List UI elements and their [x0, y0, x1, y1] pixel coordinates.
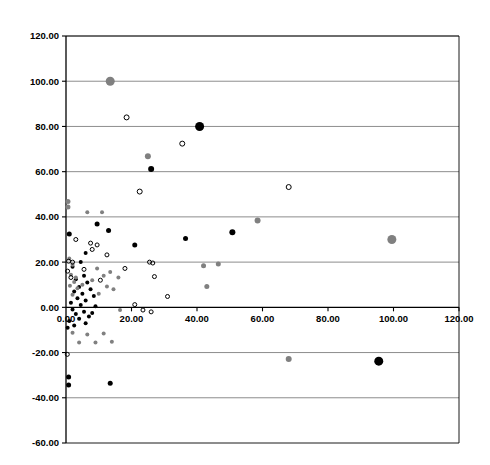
data-point — [75, 286, 79, 290]
x-tick-label: 100.00 — [379, 313, 408, 324]
data-point — [106, 77, 115, 86]
data-point — [90, 278, 94, 282]
data-point — [201, 263, 206, 268]
data-point — [74, 275, 78, 279]
data-point — [97, 292, 101, 296]
x-tick-label: 0.00 — [57, 313, 76, 324]
x-tick-label: 120.00 — [444, 313, 473, 324]
data-point — [148, 166, 154, 172]
x-tick-label: 40.00 — [185, 313, 209, 324]
y-tick-label: 80.00 — [35, 121, 59, 132]
data-point — [111, 287, 115, 291]
data-point — [87, 314, 91, 318]
data-point — [67, 232, 72, 237]
data-point — [180, 141, 185, 146]
data-point — [387, 235, 396, 244]
data-point — [286, 356, 292, 362]
data-point — [66, 383, 71, 388]
data-point — [72, 323, 76, 327]
chart-canvas: -60.00-40.00-20.000.0020.0040.0060.0080.… — [0, 0, 490, 465]
series-gray-filled — [65, 77, 396, 362]
data-point — [93, 341, 97, 345]
data-point — [102, 332, 106, 336]
y-tick-label: -40.00 — [32, 392, 59, 403]
data-point — [124, 115, 129, 120]
data-point — [152, 275, 156, 279]
data-point — [105, 285, 109, 289]
y-tick-label: 120.00 — [30, 30, 59, 41]
data-point — [82, 267, 86, 271]
data-point — [82, 310, 86, 314]
y-tick-label: 0.00 — [41, 302, 60, 313]
data-point — [183, 236, 188, 241]
data-point — [108, 381, 113, 386]
data-point — [68, 284, 72, 288]
x-tick-label: 60.00 — [251, 313, 275, 324]
data-point — [108, 270, 112, 274]
data-point — [69, 301, 73, 305]
data-point — [67, 319, 71, 323]
data-point — [72, 280, 76, 284]
data-point — [80, 283, 84, 287]
data-point — [84, 251, 88, 255]
data-point — [79, 303, 83, 307]
data-point — [75, 296, 79, 300]
data-point — [66, 326, 70, 330]
data-point — [74, 238, 78, 242]
x-tick-label: 20.00 — [120, 313, 144, 324]
data-point — [149, 310, 153, 314]
data-point — [116, 275, 120, 279]
data-point — [85, 332, 89, 336]
y-tick-label: 20.00 — [35, 257, 59, 268]
data-point — [100, 210, 104, 214]
y-tick-label: -20.00 — [32, 347, 59, 358]
data-point — [84, 321, 88, 325]
data-point — [195, 122, 204, 131]
data-point — [71, 308, 75, 312]
data-point — [85, 280, 89, 284]
y-tick-label: 40.00 — [35, 211, 59, 222]
data-point — [110, 340, 114, 344]
data-point — [90, 311, 94, 315]
data-point — [286, 185, 291, 190]
y-tick-label: 60.00 — [35, 166, 59, 177]
data-point — [255, 218, 261, 224]
y-tick-label: -60.00 — [32, 437, 59, 448]
data-point — [123, 266, 127, 270]
data-point — [204, 284, 209, 289]
data-point — [80, 292, 84, 296]
series-black-filled — [66, 122, 384, 388]
data-point — [89, 241, 93, 245]
data-point — [65, 204, 70, 209]
data-point — [95, 266, 99, 270]
data-point — [374, 357, 383, 366]
data-point — [65, 199, 70, 204]
data-point — [84, 299, 88, 303]
data-point — [132, 242, 137, 247]
data-point — [145, 153, 151, 159]
data-point — [71, 331, 75, 335]
data-point — [98, 278, 102, 282]
data-point — [85, 210, 89, 214]
data-point — [133, 303, 137, 307]
data-point — [66, 374, 71, 379]
data-point — [137, 189, 142, 194]
data-point — [216, 261, 221, 266]
data-point — [77, 317, 81, 321]
data-point — [102, 274, 106, 278]
data-point — [82, 274, 86, 278]
data-point — [89, 287, 93, 291]
data-point — [79, 260, 83, 264]
data-point — [74, 312, 78, 316]
data-point — [141, 308, 145, 312]
data-point — [71, 293, 75, 297]
data-point — [95, 243, 99, 247]
scatter-chart: -60.00-40.00-20.000.0020.0040.0060.0080.… — [0, 0, 490, 465]
y-tick-label: 100.00 — [30, 76, 59, 87]
data-point — [229, 229, 235, 235]
data-point — [77, 341, 81, 345]
x-tick-label: 80.00 — [316, 313, 340, 324]
data-point — [93, 304, 97, 308]
data-point — [106, 228, 111, 233]
data-point — [105, 253, 109, 257]
